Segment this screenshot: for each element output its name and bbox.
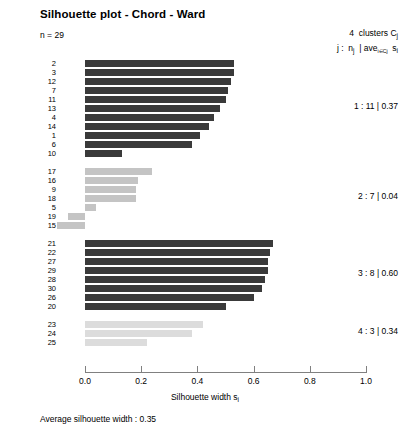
observation-label: 26 [30, 294, 56, 302]
observation-label: 12 [30, 78, 56, 86]
x-axis-tick-label: 0.8 [290, 376, 330, 386]
x-axis-tick-label: 0.2 [121, 376, 161, 386]
observation-label: 9 [30, 186, 56, 194]
x-axis-tick [366, 366, 367, 373]
silhouette-bar [85, 285, 262, 292]
cluster-annotation: 2 : 7 | 0.04 [358, 191, 398, 201]
observation-label: 2 [30, 60, 56, 68]
silhouette-bar [85, 303, 226, 310]
silhouette-bar [85, 339, 147, 346]
silhouette-bar [85, 177, 138, 184]
observation-label: 11 [30, 96, 56, 104]
observation-label: 23 [30, 321, 56, 329]
x-axis-title-text: Silhouette width s [171, 392, 238, 402]
x-axis-tick-label: 0.0 [65, 376, 105, 386]
observation-label: 19 [30, 213, 56, 221]
observation-label: 7 [30, 87, 56, 95]
observation-label: 29 [30, 267, 56, 275]
cluster-annotation: 1 : 11 | 0.37 [354, 101, 398, 111]
observation-label: 1 [30, 132, 56, 140]
observation-label: 28 [30, 276, 56, 284]
observation-label: 30 [30, 285, 56, 293]
silhouette-bar [85, 105, 220, 112]
observation-label: 10 [30, 150, 56, 158]
silhouette-bar [85, 186, 136, 193]
x-axis-tick-label: 0.4 [177, 376, 217, 386]
silhouette-bar [85, 240, 273, 247]
x-axis-line [85, 372, 366, 373]
x-axis-tick-label: 1.0 [346, 376, 386, 386]
observation-label: 18 [30, 195, 56, 203]
x-axis-title-sub: i [238, 396, 239, 403]
observation-label: 4 [30, 114, 56, 122]
observation-label: 24 [30, 330, 56, 338]
x-axis-tick [197, 366, 198, 373]
silhouette-bar [85, 150, 122, 157]
observation-label: 22 [30, 249, 56, 257]
silhouette-plot: Silhouette plot - Chord - Ward n = 29 4 … [0, 0, 410, 434]
observation-label: 6 [30, 141, 56, 149]
observation-label: 16 [30, 177, 56, 185]
observation-label: 17 [30, 168, 56, 176]
x-axis-tick [85, 366, 86, 373]
silhouette-bar [85, 168, 152, 175]
observation-label: 14 [30, 123, 56, 131]
silhouette-bar [85, 249, 270, 256]
cluster-annotation: 3 : 8 | 0.60 [358, 268, 398, 278]
observation-label: 13 [30, 105, 56, 113]
silhouette-bar [85, 78, 231, 85]
silhouette-bar [57, 222, 85, 229]
silhouette-bar [85, 330, 192, 337]
silhouette-bar [85, 114, 214, 121]
silhouette-bar [85, 294, 254, 301]
silhouette-bar [85, 60, 234, 67]
silhouette-bar [85, 123, 209, 130]
x-axis-tick [141, 366, 142, 373]
observation-label: 5 [30, 204, 56, 212]
silhouette-bar [85, 87, 228, 94]
silhouette-bar [85, 321, 203, 328]
observation-label: 21 [30, 240, 56, 248]
observation-label: 27 [30, 258, 56, 266]
observation-label: 3 [30, 69, 56, 77]
silhouette-bar [85, 96, 226, 103]
silhouette-bar [85, 69, 234, 76]
silhouette-bar [85, 258, 268, 265]
observation-label: 25 [30, 339, 56, 347]
silhouette-bar [68, 213, 85, 220]
silhouette-bar [85, 204, 96, 211]
silhouette-bar [85, 195, 136, 202]
observation-label: 15 [30, 222, 56, 230]
x-axis-title: Silhouette width si [0, 392, 410, 402]
plot-panel: 2312711134141610171691851915212227292830… [0, 0, 410, 434]
silhouette-bar [85, 276, 265, 283]
x-axis-tick [310, 366, 311, 373]
silhouette-bar [85, 132, 200, 139]
silhouette-bar [85, 267, 268, 274]
average-silhouette-footer: Average silhouette width : 0.35 [40, 414, 156, 424]
cluster-annotation: 4 : 3 | 0.34 [358, 326, 398, 336]
x-axis-tick [254, 366, 255, 373]
observation-label: 20 [30, 303, 56, 311]
x-axis-tick-label: 0.6 [234, 376, 274, 386]
silhouette-bar [85, 141, 192, 148]
